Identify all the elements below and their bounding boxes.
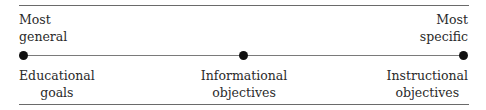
point-2-line2: objectives	[386, 84, 468, 101]
endpoint-left-line2: general	[19, 28, 67, 45]
point-marker-educational-goals	[19, 51, 28, 60]
point-0-line1: Educational	[19, 67, 95, 84]
endpoint-right-line1: Most	[420, 11, 468, 28]
point-2-line1: Instructional	[386, 67, 468, 84]
bottom-rule	[19, 104, 469, 105]
point-label-educational-goals: Educational goals	[19, 67, 95, 101]
endpoint-label-most-general: Most general	[19, 11, 67, 45]
top-rule	[19, 5, 469, 6]
endpoint-right-line2: specific	[420, 28, 468, 45]
point-marker-informational-objectives	[239, 51, 248, 60]
point-1-line1: Informational	[193, 67, 295, 84]
point-label-informational-objectives: Informational objectives	[193, 67, 295, 101]
point-label-instructional-objectives: Instructional objectives	[386, 67, 468, 101]
point-1-line2: objectives	[193, 84, 295, 101]
point-0-line2: goals	[19, 84, 95, 101]
endpoint-left-line1: Most	[19, 11, 67, 28]
point-marker-instructional-objectives	[459, 51, 468, 60]
endpoint-label-most-specific: Most specific	[420, 11, 468, 45]
